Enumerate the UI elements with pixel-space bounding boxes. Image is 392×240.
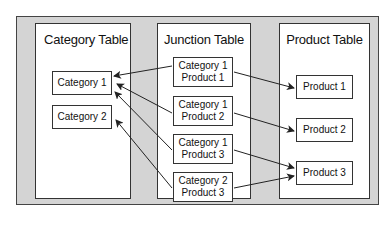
junction-row-4: Category 2 Product 3	[173, 172, 233, 202]
junction-2-category: Category 1	[174, 99, 232, 111]
junction-3-category: Category 1	[174, 137, 232, 149]
category-2-box: Category 2	[52, 105, 112, 129]
category-1-label: Category 1	[53, 77, 111, 89]
junction-2-product: Product 2	[174, 111, 232, 123]
junction-3-product: Product 3	[174, 149, 232, 161]
product-1-label: Product 1	[297, 81, 352, 93]
product-3-label: Product 3	[297, 167, 352, 179]
junction-1-product: Product 1	[174, 72, 232, 84]
category-table-title: Category Table	[36, 32, 130, 47]
junction-table-title: Junction Table	[158, 32, 250, 47]
product-3-box: Product 3	[296, 161, 353, 185]
product-table-title: Product Table	[280, 32, 369, 47]
junction-row-3: Category 1 Product 3	[173, 134, 233, 164]
product-2-label: Product 2	[297, 124, 352, 136]
junction-4-category: Category 2	[174, 175, 232, 187]
category-2-label: Category 2	[53, 111, 111, 123]
junction-4-product: Product 3	[174, 187, 232, 199]
junction-1-category: Category 1	[174, 60, 232, 72]
product-1-box: Product 1	[296, 75, 353, 99]
category-1-box: Category 1	[52, 71, 112, 95]
junction-row-1: Category 1 Product 1	[173, 57, 233, 87]
product-2-box: Product 2	[296, 118, 353, 142]
junction-row-2: Category 1 Product 2	[173, 96, 233, 126]
